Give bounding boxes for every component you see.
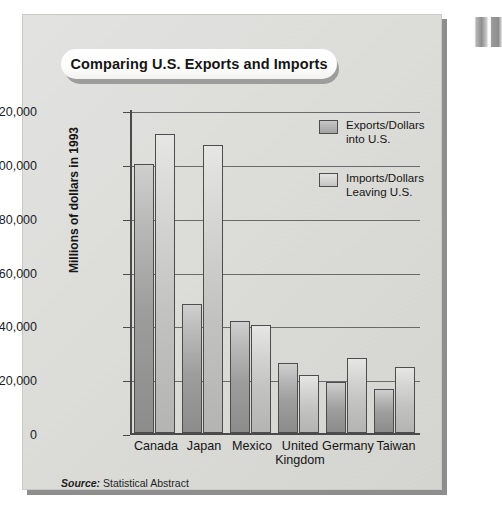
bar-exports-mexico — [230, 321, 250, 433]
bar-exports-japan — [182, 304, 202, 433]
bar-group — [180, 110, 228, 433]
legend-item-imports: Imports/DollarsLeaving U.S. — [319, 171, 469, 198]
x-axis-line — [130, 433, 420, 435]
y-axis-tick-label: 20,000 — [0, 374, 37, 388]
y-axis-tick-label: 0 — [30, 428, 37, 442]
bar-exports-united-kingdom — [278, 363, 298, 433]
chart-legend: Exports/Dollarsinto U.S.Imports/DollarsL… — [319, 118, 469, 224]
y-axis-tick — [123, 435, 130, 436]
x-axis-tick-labels: CanadaJapanMexicoUnitedKingdomGermanyTai… — [130, 439, 422, 481]
x-axis-label-united-kingdom: UnitedKingdom — [275, 439, 325, 467]
bar-group — [132, 110, 180, 433]
source-note: Source: Statistical Abstract — [61, 477, 189, 489]
x-axis-label-germany: Germany — [322, 439, 374, 453]
page-title: Comparing U.S. Exports and Imports — [70, 56, 327, 72]
y-axis-tick-label: 120,000 — [0, 105, 37, 119]
y-axis-tick — [123, 327, 130, 328]
x-axis-label-mexico: Mexico — [232, 439, 272, 453]
bar-imports-japan — [203, 145, 223, 433]
chart-title-container: Comparing U.S. Exports and Imports — [59, 49, 451, 83]
bar-group — [276, 110, 324, 433]
bar-imports-germany — [347, 358, 367, 433]
title-pill: Comparing U.S. Exports and Imports — [61, 49, 337, 79]
source-value: Statistical Abstract — [100, 477, 189, 489]
x-axis-label-taiwan: Taiwan — [376, 439, 415, 453]
cropped-adjacent-graphic — [473, 17, 502, 47]
source-label: Source: — [61, 477, 100, 489]
bar-imports-canada — [155, 134, 175, 433]
bar-exports-taiwan — [374, 389, 394, 433]
bar-exports-germany — [326, 382, 346, 433]
x-axis-label-canada: Canada — [134, 439, 178, 453]
y-axis-tick-label: 40,000 — [0, 320, 37, 334]
legend-swatch-exports — [319, 120, 338, 134]
bar-imports-taiwan — [395, 367, 415, 433]
bar-exports-canada — [134, 164, 154, 433]
y-axis-tick-label: 80,000 — [0, 213, 37, 227]
legend-swatch-imports — [319, 173, 338, 187]
legend-label-exports: Exports/Dollarsinto U.S. — [346, 118, 425, 145]
y-axis-title: Millions of dollars in 1993 — [67, 127, 81, 273]
y-axis-tick-label: 60,000 — [0, 267, 37, 281]
y-axis-tick-label: 100,000 — [0, 159, 37, 173]
y-axis-tick — [123, 381, 130, 382]
legend-label-imports: Imports/DollarsLeaving U.S. — [346, 171, 424, 198]
y-axis-tick — [123, 112, 130, 113]
bar-imports-united-kingdom — [299, 375, 319, 433]
bar-imports-mexico — [251, 325, 271, 433]
screenshot-root: Comparing U.S. Exports and Imports Milli… — [0, 0, 502, 530]
y-axis-tick — [123, 274, 130, 275]
y-axis-tick — [123, 220, 130, 221]
y-axis-tick — [123, 166, 130, 167]
legend-item-exports: Exports/Dollarsinto U.S. — [319, 118, 469, 145]
x-axis-label-japan: Japan — [187, 439, 221, 453]
bar-group — [228, 110, 276, 433]
chart-panel: Comparing U.S. Exports and Imports Milli… — [22, 14, 442, 490]
